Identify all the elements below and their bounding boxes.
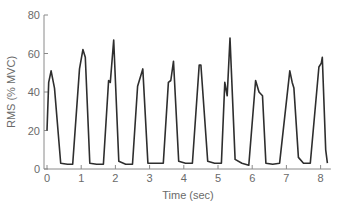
x-tick-label: 7 [283, 172, 289, 184]
x-tick-label: 6 [249, 172, 255, 184]
x-tick-label: 8 [318, 172, 324, 184]
y-tick-label: 40 [28, 86, 40, 98]
x-tick-label: 2 [112, 172, 118, 184]
y-tick-label: 20 [28, 125, 40, 137]
x-axis: 012345678 [44, 165, 331, 184]
x-tick-label: 3 [147, 172, 153, 184]
y-tick-label: 80 [28, 9, 40, 21]
y-axis: 020406080 [28, 9, 48, 175]
rms-series-line [47, 38, 327, 165]
x-tick-label: 5 [215, 172, 221, 184]
x-axis-title: Time (sec) [162, 189, 214, 201]
x-tick-label: 4 [181, 172, 187, 184]
y-tick-label: 60 [28, 48, 40, 60]
x-tick-label: 0 [44, 172, 50, 184]
rms-line-chart: 020406080 012345678 Time (sec) RMS (% MV… [0, 0, 348, 205]
y-tick-label: 0 [34, 163, 40, 175]
x-tick-label: 1 [78, 172, 84, 184]
y-axis-title: RMS (% MVC) [5, 56, 17, 128]
